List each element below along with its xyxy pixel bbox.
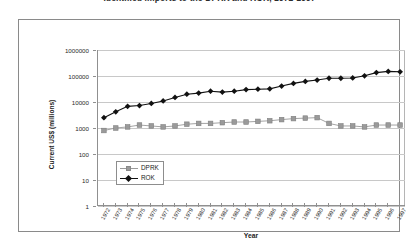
x-axis-tick-label: 1986: [266, 207, 277, 221]
x-axis-tick-mark: [186, 203, 187, 207]
y-axis-tick-label: 1000000: [29, 47, 89, 54]
x-axis-tick-label: 1987: [277, 207, 288, 221]
data-point-dprk: [208, 121, 213, 126]
x-axis-tick-label: 1996: [384, 207, 395, 221]
x-axis-tick-label: 1989: [301, 207, 312, 221]
x-axis-tick-mark: [257, 203, 258, 207]
data-point-dprk: [339, 124, 344, 129]
data-point-dprk: [232, 120, 237, 125]
x-axis-tick-mark: [150, 203, 151, 207]
legend-marker-square-icon: [120, 165, 138, 172]
x-axis-tick-label: 1992: [337, 207, 348, 221]
x-axis-tick-label: 1981: [206, 207, 217, 221]
x-axis-tick-label: 1977: [159, 207, 170, 221]
x-axis-tick-mark: [316, 203, 317, 207]
x-axis-tick-mark: [387, 203, 388, 207]
x-axis-tick-mark: [281, 203, 282, 207]
data-point-rok: [291, 80, 297, 86]
x-axis-tick-mark: [138, 203, 139, 207]
x-axis-tick-label: 1982: [218, 207, 229, 221]
data-point-rok: [314, 77, 320, 83]
y-axis-tick-label: 100000: [29, 73, 89, 80]
y-axis-tick-label: 10000: [29, 99, 89, 106]
x-axis-tick-mark: [115, 203, 116, 207]
figure-title: Identified imports to the DPRK and ROK, …: [0, 0, 419, 3]
legend-label-dprk: DPRK: [141, 164, 159, 172]
data-point-dprk: [125, 125, 130, 130]
data-point-dprk: [386, 123, 391, 128]
data-point-dprk: [291, 116, 296, 121]
data-point-dprk: [398, 123, 403, 128]
data-point-rok: [125, 103, 131, 109]
x-axis-tick-mark: [292, 203, 293, 207]
data-point-rok: [184, 91, 190, 97]
x-axis-tick-label: 1991: [325, 207, 336, 221]
x-axis-tick-mark: [233, 203, 234, 207]
series-line-dprk: [104, 118, 400, 131]
y-axis-tick-labels: 1000000100000100001000100101: [19, 50, 93, 206]
x-axis-tick-label: 1983: [230, 207, 241, 221]
data-point-rok: [196, 90, 202, 96]
y-axis-tick-mark: [93, 76, 96, 77]
y-axis-tick-mark: [93, 206, 96, 207]
x-axis-tick-mark: [174, 203, 175, 207]
y-axis-tick-label: 10: [29, 177, 89, 184]
x-axis-tick-mark: [328, 203, 329, 207]
data-point-dprk: [137, 123, 142, 128]
legend-label-rok: ROK: [141, 174, 155, 182]
x-axis-tick-mark: [127, 203, 128, 207]
data-point-rok: [279, 83, 285, 89]
x-axis-tick-label: 1985: [254, 207, 265, 221]
x-axis-tick-label: 1974: [123, 207, 134, 221]
legend-item-dprk: DPRK: [120, 164, 159, 172]
x-axis-tick-mark: [364, 203, 365, 207]
x-axis-tick-label: 1980: [194, 207, 205, 221]
data-point-rok: [302, 79, 308, 85]
y-axis-tick-label: 1000: [29, 125, 89, 132]
x-axis-tick-label: 1976: [147, 207, 158, 221]
data-point-rok: [397, 69, 403, 75]
y-axis-tick-mark: [93, 102, 96, 103]
data-point-dprk: [149, 124, 154, 129]
data-point-dprk: [374, 123, 379, 128]
data-point-rok: [362, 73, 368, 79]
chart-legend: DPRK ROK: [116, 161, 164, 185]
x-axis-tick-mark: [375, 203, 376, 207]
y-axis-tick-mark: [93, 128, 96, 129]
data-point-dprk: [196, 121, 201, 126]
data-point-rok: [385, 69, 391, 75]
x-axis-tick-label: 1993: [348, 207, 359, 221]
x-axis-tick-label: 1972: [100, 207, 111, 221]
x-axis-tick-mark: [221, 203, 222, 207]
y-axis-tick-mark: [93, 50, 96, 51]
data-point-rok: [219, 89, 225, 95]
y-axis-tick-mark: [93, 154, 96, 155]
x-axis-tick-mark: [304, 203, 305, 207]
data-point-dprk: [173, 124, 178, 129]
chart-figure: Identified imports to the DPRK and ROK, …: [0, 0, 419, 238]
x-axis-tick-mark: [269, 203, 270, 207]
data-point-rok: [160, 98, 166, 104]
x-axis-tick-label: 1978: [171, 207, 182, 221]
data-point-rok: [326, 75, 332, 81]
x-axis-tick-mark: [162, 203, 163, 207]
data-point-dprk: [327, 121, 332, 126]
x-axis-tick-label: 1975: [135, 207, 146, 221]
data-point-rok: [172, 95, 178, 101]
x-axis-tick-mark: [340, 203, 341, 207]
x-axis-tick-label: 1994: [360, 207, 371, 221]
x-axis-tick-label: 1984: [242, 207, 253, 221]
x-axis-tick-label: 1973: [112, 207, 123, 221]
data-point-dprk: [279, 117, 284, 122]
x-axis-tick-label: 1997: [396, 207, 407, 221]
x-axis-tick-mark: [198, 203, 199, 207]
data-point-dprk: [244, 120, 249, 125]
x-axis-tick-mark: [245, 203, 246, 207]
legend-marker-diamond-icon: [120, 175, 138, 182]
data-point-rok: [267, 86, 273, 92]
data-point-rok: [350, 75, 356, 81]
data-point-rok: [113, 109, 119, 115]
data-point-dprk: [303, 116, 308, 121]
legend-item-rok: ROK: [120, 174, 159, 182]
x-axis-tick-mark: [210, 203, 211, 207]
